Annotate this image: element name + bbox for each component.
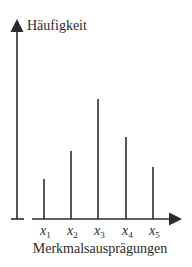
x-tick-label-x2: x2: [66, 223, 78, 240]
frequency-stick-chart: Häufigkeit x1x2x3x4x5 Merkmalsausprägung…: [0, 0, 192, 267]
bars: [44, 99, 153, 219]
x-tick-label-x5: x5: [148, 223, 160, 240]
y-axis-arrow-icon: [11, 19, 24, 32]
x-tick-label-x1: x1: [39, 223, 51, 240]
x-tick-label-x4: x4: [121, 223, 133, 240]
x-axis-arrow-icon: [169, 213, 182, 226]
x-axis-label: Merkmalsausprägungen: [33, 241, 168, 256]
y-axis-label: Häufigkeit: [27, 18, 87, 33]
x-tick-label-x3: x3: [93, 223, 105, 240]
x-tick-labels: x1x2x3x4x5: [39, 223, 160, 240]
